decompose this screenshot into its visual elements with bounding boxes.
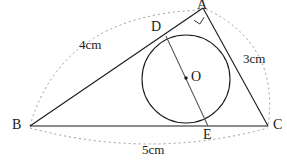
triangle-sides bbox=[30, 8, 268, 126]
chord-DE bbox=[166, 36, 208, 126]
measurement-label-BC: 5cm bbox=[142, 143, 164, 156]
vertex-label-A: A bbox=[197, 0, 207, 12]
vertex-label-B: B bbox=[12, 118, 21, 132]
center-point-O bbox=[184, 76, 187, 79]
vertex-label-D: D bbox=[151, 20, 161, 34]
right-angle-marker-at-A bbox=[194, 17, 204, 24]
geometry-canvas bbox=[0, 0, 287, 164]
measurement-arcs bbox=[30, 9, 270, 144]
measurement-label-AC: 3cm bbox=[243, 52, 265, 65]
center-label-O: O bbox=[191, 70, 201, 84]
side-AB bbox=[30, 8, 203, 126]
measurement-label-AB: 4cm bbox=[79, 38, 101, 51]
arc-AC-dashed bbox=[206, 9, 270, 126]
side-AC bbox=[203, 8, 268, 126]
geometry-figure: B C A D E O 4cm 3cm 5cm bbox=[0, 0, 287, 164]
vertex-label-C: C bbox=[273, 118, 282, 132]
vertex-label-E: E bbox=[203, 128, 212, 142]
